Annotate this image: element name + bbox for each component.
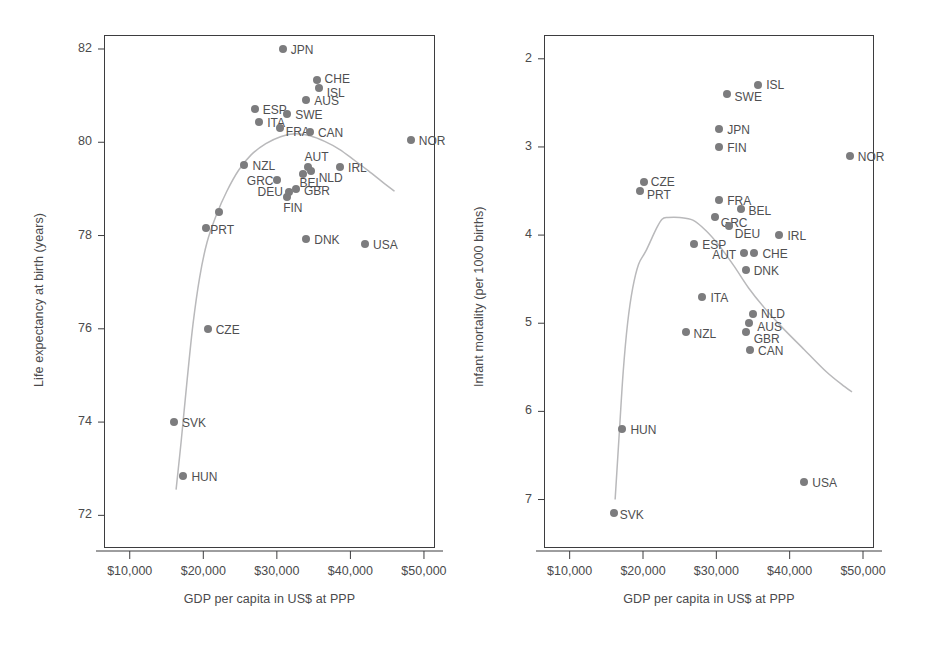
point-label: DEU — [258, 186, 283, 198]
plot-vector-layer-right — [470, 0, 938, 649]
scatter-point — [682, 328, 690, 336]
x-axis-title-life-expectancy: GDP per capita in US$ at PPP — [120, 592, 420, 606]
point-label: HUN — [630, 424, 656, 436]
point-label: NLD — [319, 172, 343, 184]
y-tick-label: 7 — [484, 492, 532, 506]
point-label: ISL — [766, 79, 784, 91]
point-label: CZE — [216, 324, 240, 336]
y-tick-label: 3 — [484, 139, 532, 153]
point-label: JPN — [727, 124, 750, 136]
two-panel-scatter-figure: JPNCHEISLAUSESPSWEITAFRACANNORNZLIRLAUTN… — [0, 0, 938, 649]
point-label: ITA — [710, 292, 728, 304]
y-axis-title-life-expectancy: Life expectancy at birth (years) — [32, 212, 46, 386]
point-label: NOR — [858, 151, 885, 163]
scatter-point — [215, 208, 223, 216]
point-label: FIN — [727, 142, 746, 154]
scatter-point — [742, 328, 750, 336]
scatter-point — [746, 346, 754, 354]
scatter-point — [273, 176, 281, 184]
scatter-point — [742, 266, 750, 274]
point-label: CAN — [318, 127, 343, 139]
point-label: NLD — [761, 308, 785, 320]
point-label: CZE — [651, 176, 675, 188]
scatter-point — [315, 84, 323, 92]
point-label: PRT — [210, 224, 234, 236]
point-label: NOR — [419, 135, 446, 147]
scatter-point — [292, 185, 300, 193]
point-label: NZL — [694, 328, 717, 340]
scatter-point — [336, 163, 344, 171]
point-label: FIN — [283, 202, 302, 214]
scatter-point — [636, 187, 644, 195]
y-tick-label: 80 — [44, 134, 92, 148]
point-label: GBR — [304, 185, 330, 197]
point-label: AUT — [304, 151, 328, 163]
scatter-point — [610, 509, 618, 517]
scatter-point — [170, 418, 178, 426]
point-label: AUS — [314, 95, 339, 107]
point-label: IRL — [348, 162, 367, 174]
point-label: USA — [373, 239, 398, 251]
point-label: BEL — [749, 205, 772, 217]
x-tick-label: $50,000 — [818, 564, 908, 578]
scatter-point — [204, 325, 212, 333]
point-label: CAN — [758, 345, 783, 357]
point-label: SWE — [735, 91, 762, 103]
scatter-point — [307, 167, 315, 175]
point-label: JPN — [291, 44, 314, 56]
y-tick-label: 6 — [484, 403, 532, 417]
point-label: DEU — [735, 228, 760, 240]
scatter-point — [640, 178, 648, 186]
point-label: IRL — [787, 230, 806, 242]
point-label: NZL — [252, 160, 275, 172]
x-axis-title-infant-mortality: GDP per capita in US$ at PPP — [559, 592, 859, 606]
life-expectancy-panel: JPNCHEISLAUSESPSWEITAFRACANNORNZLIRLAUTN… — [0, 0, 470, 649]
point-label: SWE — [295, 109, 322, 121]
scatter-point — [306, 128, 314, 136]
point-label: AUT — [712, 249, 736, 261]
y-axis-title-infant-mortality: Infant mortality (per 1000 births) — [472, 206, 486, 387]
scatter-point — [279, 45, 287, 53]
scatter-point — [737, 205, 745, 213]
y-tick-label: 74 — [44, 414, 92, 428]
y-tick-label: 72 — [44, 507, 92, 521]
scatter-point — [407, 136, 415, 144]
scatter-point — [361, 240, 369, 248]
point-label: USA — [812, 477, 837, 489]
y-tick-label: 76 — [44, 321, 92, 335]
point-label: SVK — [620, 509, 644, 521]
y-tick-label: 78 — [44, 228, 92, 242]
point-label: DNK — [314, 234, 339, 246]
point-label: DNK — [754, 265, 779, 277]
scatter-point — [740, 249, 748, 257]
y-tick-label: 82 — [44, 41, 92, 55]
point-label: SVK — [182, 417, 206, 429]
point-label: CHE — [325, 73, 350, 85]
y-tick-label: 2 — [484, 51, 532, 65]
scatter-point — [202, 224, 210, 232]
y-tick-label: 5 — [484, 315, 532, 329]
scatter-point — [846, 152, 854, 160]
scatter-point — [251, 105, 259, 113]
x-tick-label: $50,000 — [379, 564, 469, 578]
point-label: PRT — [647, 189, 671, 201]
infant-mortality-panel: ISLSWEJPNFINNORCZEPRTFRABELGRCDEUIRLESPA… — [470, 0, 938, 649]
point-label: CHE — [762, 248, 787, 260]
point-label: HUN — [191, 471, 217, 483]
y-tick-label: 4 — [484, 227, 532, 241]
smoothed-fit-curve — [176, 134, 394, 490]
scatter-point — [723, 90, 731, 98]
